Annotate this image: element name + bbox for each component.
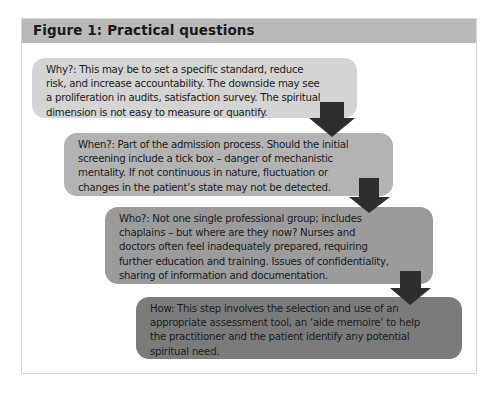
step-text-line: dimension is not easy to measure or quan… bbox=[46, 106, 345, 120]
arrow-down-icon bbox=[349, 178, 391, 214]
arrow-down-icon bbox=[308, 102, 356, 138]
step-text-line: When?: Part of the admission process. Sh… bbox=[78, 138, 381, 152]
step-text-line: chaplains – but where are they now? Nurs… bbox=[119, 226, 421, 240]
step-who-box: Who?: Not one single professional group;… bbox=[105, 207, 433, 284]
arrow-down-icon bbox=[390, 271, 432, 306]
step-text-line: sharing of information and documentation… bbox=[119, 269, 421, 283]
step-text-line: mentality. If not continuous in nature, … bbox=[78, 166, 381, 180]
step-text-line: doctors often feel inadequately prepared… bbox=[119, 240, 421, 254]
step-text-line: changes in the patient’s state may not b… bbox=[78, 181, 381, 195]
step-text-line: spiritual need. bbox=[150, 345, 450, 359]
step-text-line: appropriate assessment tool, an ‘aide me… bbox=[150, 316, 450, 330]
step-text-line: a proliferation in audits, satisfaction … bbox=[46, 91, 345, 105]
step-text-line: Who?: Not one single professional group;… bbox=[119, 212, 421, 226]
figure-header: Figure 1: Practical questions bbox=[22, 19, 476, 43]
figure-title: Figure 1: Practical questions bbox=[33, 22, 255, 38]
step-how-box: How: This step involves the selection an… bbox=[136, 297, 462, 359]
step-text-line: Why?: This may be to set a specific stan… bbox=[46, 63, 345, 77]
step-text-line: risk, and increase accountability. The d… bbox=[46, 77, 345, 91]
step-text-line: screening include a tick box – danger of… bbox=[78, 152, 381, 166]
step-when-box: When?: Part of the admission process. Sh… bbox=[64, 133, 393, 196]
step-text-line: the practitioner and the patient identif… bbox=[150, 330, 450, 344]
step-text-line: further education and training. Issues o… bbox=[119, 255, 421, 269]
